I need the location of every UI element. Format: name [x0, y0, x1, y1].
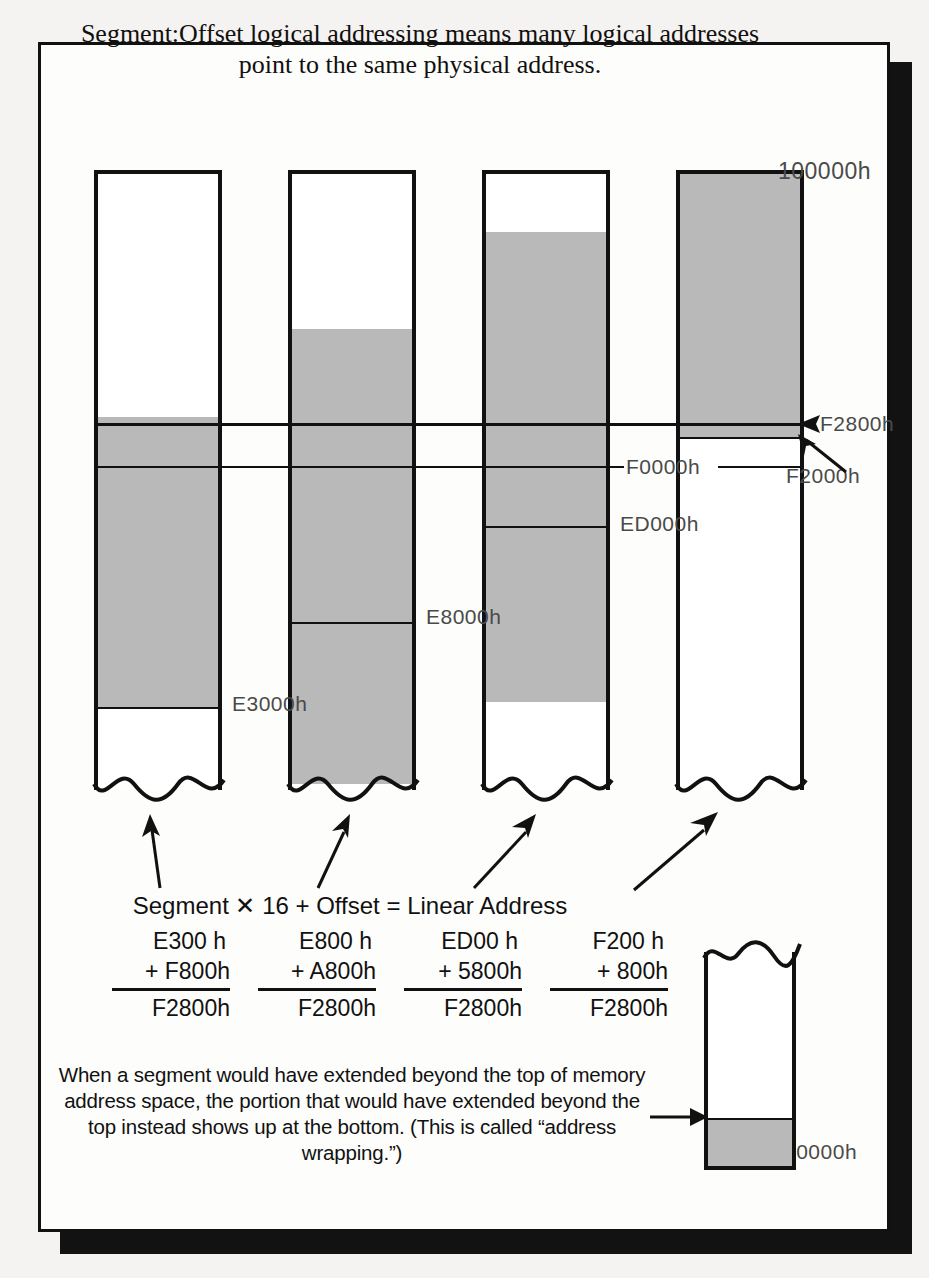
wrap-around-fill [708, 1118, 792, 1166]
sum-offset-4: + 800h [550, 956, 668, 991]
wavy-break-1 [90, 770, 230, 810]
callout-arrow-4 [630, 806, 750, 894]
memory-column-1 [94, 170, 222, 790]
wavy-break-4 [672, 770, 812, 810]
sum-column-3: ED00 h + 5800h F2800h [404, 926, 522, 1023]
arrow-to-wrap-region [650, 1104, 712, 1130]
wavy-break-3 [478, 770, 618, 810]
footnote-text: When a segment would have extended beyon… [52, 1062, 652, 1166]
segment-boundary-ed000 [486, 526, 606, 528]
sum-segment-4: F200 h [550, 926, 668, 956]
reference-line-f0000-left [98, 466, 624, 468]
segment-fill-4 [680, 174, 800, 439]
arrow-f2000 [790, 430, 850, 476]
sum-total-1: F2800h [112, 991, 230, 1023]
callout-arrow-3 [470, 808, 570, 892]
sum-total-4: F2800h [550, 991, 668, 1023]
wavy-break-2 [284, 770, 424, 810]
memory-column-4 [676, 170, 804, 790]
sum-column-4: F200 h + 800h F2800h [550, 926, 668, 1023]
reference-line-f2800 [98, 423, 802, 426]
sum-column-2: E800 h + A800h F2800h [258, 926, 376, 1023]
callout-arrow-1 [130, 810, 190, 890]
callout-arrow-2 [310, 810, 380, 890]
segment-boundary-e8000 [292, 622, 412, 624]
segment-boundary-e3000 [98, 707, 218, 709]
address-label-100000h: 100000h [778, 158, 871, 185]
wrap-around-boundary [708, 1118, 792, 1120]
sum-total-3: F2800h [404, 991, 522, 1023]
address-label-f0000h: F0000h [626, 455, 700, 479]
sum-offset-2: + A800h [258, 956, 376, 991]
sum-segment-1: E300 h [112, 926, 230, 956]
diagram-canvas: Segment:Offset logical addressing means … [0, 0, 929, 1278]
address-label-e3000h: E3000h [232, 692, 307, 716]
sum-segment-2: E800 h [258, 926, 376, 956]
sum-total-2: F2800h [258, 991, 376, 1023]
equation-formula: Segment ✕ 16 + Offset = Linear Address [0, 892, 700, 920]
memory-column-3 [482, 170, 610, 790]
address-label-ed000h: ED000h [620, 512, 699, 536]
segment-fill-2 [292, 329, 412, 784]
segment-fill-1 [98, 417, 218, 709]
sum-segment-3: ED00 h [404, 926, 522, 956]
sum-offset-1: + F800h [112, 956, 230, 991]
wavy-break-wrap [700, 936, 804, 970]
segment-boundary-f2000 [680, 437, 800, 439]
wrap-around-column [704, 952, 796, 1170]
sum-column-1: E300 h + F800h F2800h [112, 926, 230, 1023]
address-label-e8000h: E8000h [426, 605, 501, 629]
sum-offset-3: + 5800h [404, 956, 522, 991]
diagram-title: Segment:Offset logical addressing means … [70, 18, 770, 80]
